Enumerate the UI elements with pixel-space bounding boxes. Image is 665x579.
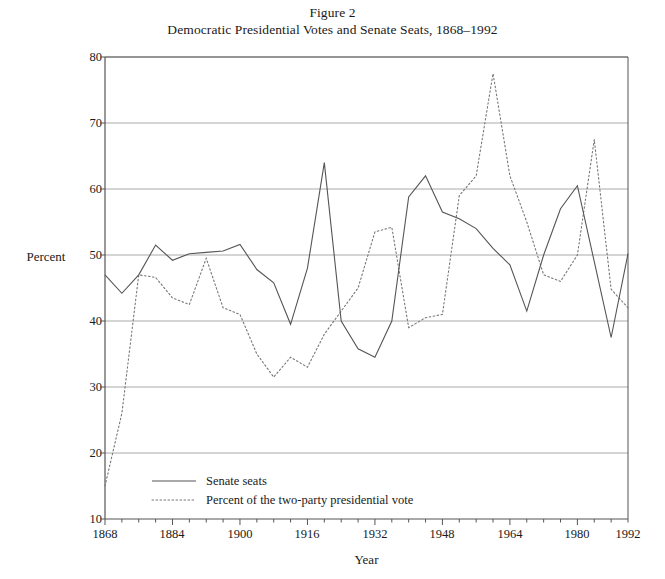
- x-tick-marks: [105, 519, 628, 525]
- figure-container: Figure 2 Democratic Presidential Votes a…: [0, 0, 665, 579]
- legend-label-presidential-vote: Percent of the two-party presidential vo…: [206, 493, 413, 508]
- grid-lines: [105, 57, 628, 453]
- series-line-presidential-vote: [105, 74, 628, 487]
- legend-label-senate-seats: Senate seats: [206, 474, 267, 489]
- axis-lines: [105, 57, 628, 519]
- y-tick-marks: [100, 57, 105, 519]
